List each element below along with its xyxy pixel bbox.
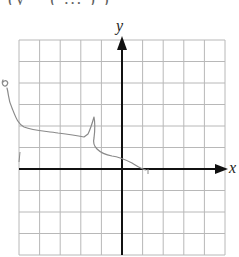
pencil-sketch-curve bbox=[2, 80, 146, 170]
axes bbox=[19, 36, 228, 255]
y-axis-arrowhead-icon bbox=[117, 36, 127, 50]
y-axis-label: y bbox=[116, 18, 123, 34]
graph-canvas: (y = ( ... ) ) y x bbox=[0, 0, 239, 257]
x-axis-label: x bbox=[229, 160, 236, 176]
clipped-header-text: (y = ( ... ) ) bbox=[8, 0, 238, 5]
x-axis-arrowhead-icon bbox=[215, 164, 228, 174]
coordinate-grid bbox=[0, 0, 239, 257]
stray-pencil-marks bbox=[19, 152, 148, 174]
